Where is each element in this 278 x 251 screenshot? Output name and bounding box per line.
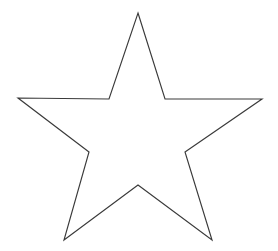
canvas-background (0, 0, 278, 251)
star-figure (0, 0, 278, 251)
image-canvas (0, 0, 278, 251)
